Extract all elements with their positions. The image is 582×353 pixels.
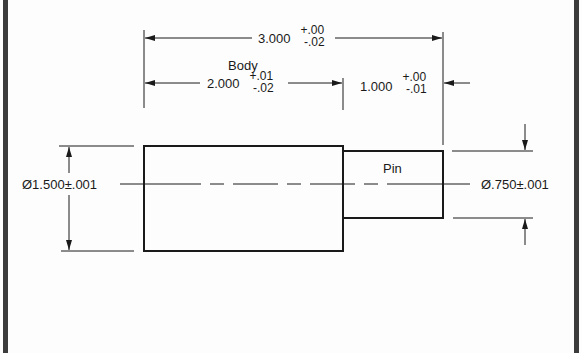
body-diameter-dimension bbox=[59, 146, 134, 251]
pin-diameter-text: Ø.750±.001 bbox=[481, 178, 549, 191]
body-length-tolerance: +.01 -.02 bbox=[249, 70, 274, 94]
overall-length-nominal: 3.000 bbox=[258, 32, 291, 45]
pin-length-tol-lower: -.01 bbox=[402, 83, 427, 95]
extension-lines bbox=[144, 30, 443, 145]
overall-length-tol-lower: -.02 bbox=[300, 36, 325, 48]
pin-label-text: Pin bbox=[383, 161, 402, 176]
body-outline bbox=[144, 146, 343, 251]
body-diameter-text: Ø1.500±.001 bbox=[22, 178, 97, 191]
overall-length-tolerance: +.00 -.02 bbox=[300, 24, 325, 48]
pin-length-tolerance: +.00 -.01 bbox=[402, 71, 427, 95]
body-length-tol-lower: -.02 bbox=[249, 82, 274, 94]
pin-length-nominal: 1.000 bbox=[360, 80, 393, 93]
pin-label: Pin bbox=[383, 162, 402, 175]
body-length-nominal: 2.000 bbox=[207, 77, 240, 90]
